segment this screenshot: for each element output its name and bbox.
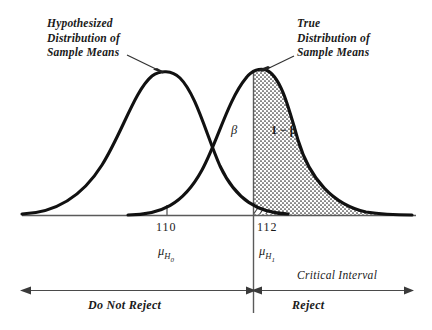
reject-left-arrowhead xyxy=(251,287,262,295)
hypothesized-distribution-curve xyxy=(22,72,288,214)
hypothesized-distribution-label: Hypothesized Distribution of Sample Mean… xyxy=(47,16,120,60)
hypothesized-label-line3: Sample Means xyxy=(47,45,120,60)
do-not-reject-label: Do Not Reject xyxy=(88,298,161,313)
mu-alt-label: μH1 xyxy=(259,244,275,263)
true-distribution-label: True Distribution of Sample Means xyxy=(297,16,370,60)
power-region-label: 1 − β xyxy=(271,123,296,138)
hypothesized-label-leader-line xyxy=(127,55,160,71)
reject-label: Reject xyxy=(292,298,324,313)
hypothesized-label-line1: Hypothesized xyxy=(47,16,120,31)
critical-interval-label: Critical Interval xyxy=(297,269,377,281)
mu-null-label: μH0 xyxy=(158,244,174,263)
true-label-line1: True xyxy=(297,16,370,31)
true-label-line2: Distribution of xyxy=(297,31,370,46)
axis-label-112: 112 xyxy=(257,220,278,235)
axis-label-110: 110 xyxy=(156,220,177,235)
true-label-line3: Sample Means xyxy=(297,45,370,60)
mu-alt-sub-index: 1 xyxy=(271,255,275,263)
power-analysis-figure: Hypothesized Distribution of Sample Mean… xyxy=(0,0,432,330)
hypothesized-label-line2: Distribution of xyxy=(47,31,120,46)
beta-region-label: β xyxy=(231,123,237,138)
reject-right-arrowhead xyxy=(404,287,414,295)
do-not-reject-left-arrowhead xyxy=(20,287,31,295)
mu-null-sub-index: 0 xyxy=(170,255,174,263)
